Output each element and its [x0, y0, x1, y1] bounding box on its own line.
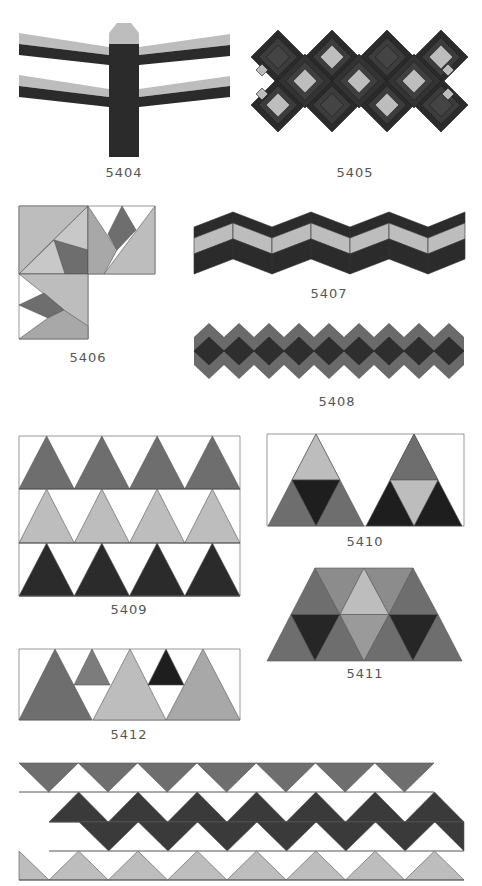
patch: [78, 763, 137, 792]
patch: [316, 822, 375, 851]
patch: [19, 851, 49, 880]
pattern-5404: [19, 23, 230, 157]
label-5410: 5410: [346, 534, 383, 549]
patch: [19, 763, 78, 792]
patch: [109, 23, 139, 44]
label-5408: 5408: [318, 394, 355, 409]
patch: [405, 851, 464, 880]
patch: [198, 822, 257, 851]
pattern-5406: [19, 206, 155, 339]
patch: [257, 822, 316, 851]
pattern-5412: [19, 649, 240, 720]
patch: [286, 851, 345, 880]
label-5409: 5409: [110, 602, 147, 617]
patch: [256, 763, 315, 792]
patch: [108, 851, 167, 880]
pattern-5408: [194, 323, 464, 379]
pattern-5411: [267, 568, 462, 661]
patch: [227, 851, 286, 880]
patch: [227, 792, 286, 822]
patch: [108, 792, 167, 822]
pattern-5410: [267, 434, 464, 526]
patch: [405, 792, 464, 822]
pattern-canvas: [0, 0, 482, 886]
patch: [197, 763, 256, 792]
patch: [346, 851, 405, 880]
label-5407: 5407: [310, 286, 347, 301]
patch: [376, 822, 435, 851]
patch: [435, 822, 464, 851]
label-5412: 5412: [110, 727, 147, 742]
patch: [109, 44, 139, 157]
label-5406: 5406: [69, 350, 106, 365]
patch: [316, 763, 375, 792]
patch: [286, 792, 345, 822]
patch: [138, 763, 197, 792]
pattern-5405: [251, 30, 468, 132]
label-5404: 5404: [105, 165, 142, 180]
patch: [49, 851, 108, 880]
pattern-5409: [19, 436, 240, 596]
patch: [346, 792, 405, 822]
label-5411: 5411: [346, 666, 383, 681]
pattern-5407: [194, 212, 465, 274]
patch: [138, 822, 197, 851]
pattern-bottom-band: [19, 763, 464, 880]
label-5405: 5405: [336, 165, 373, 180]
patch: [168, 851, 227, 880]
patch: [168, 792, 227, 822]
patch: [49, 792, 108, 822]
patch: [375, 763, 434, 792]
patch: [79, 822, 138, 851]
